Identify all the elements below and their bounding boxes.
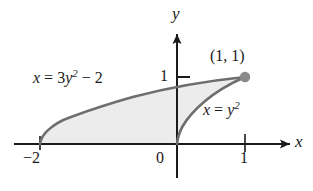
- upper-eq-coefficient: 3: [57, 69, 65, 86]
- y-axis-label: y: [172, 5, 180, 22]
- upper-eq-constant: 2: [95, 69, 103, 86]
- x-axis-label: x: [295, 133, 303, 150]
- lower-curve-equation-label: x = y2: [203, 102, 240, 118]
- y-tick-label-1: 1: [160, 68, 168, 84]
- origin-label: 0: [156, 150, 164, 166]
- lower-eq-exponent: 2: [234, 99, 239, 111]
- x-tick-label-neg2: −2: [23, 150, 40, 166]
- upper-curve-equation-label: x = 3y2 − 2: [33, 70, 103, 86]
- upper-eq-equals: =: [44, 69, 53, 86]
- upper-eq-minus: −: [82, 69, 91, 86]
- figure-canvas: y x 1 1 0 −2 x = 3y2 − 2 x = y2 (1, 1): [0, 0, 313, 191]
- point-label-1-1: (1, 1): [210, 48, 245, 64]
- lower-eq-equals: =: [214, 101, 223, 118]
- x-tick-label-1: 1: [240, 150, 248, 166]
- point-marker-1-1: [240, 72, 250, 82]
